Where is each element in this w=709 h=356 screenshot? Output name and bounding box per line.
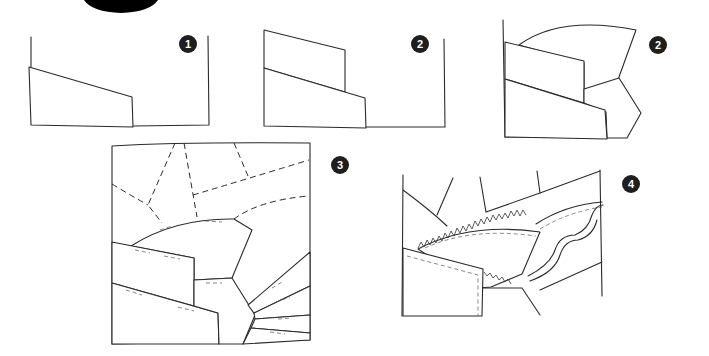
step-2b-diagram bbox=[503, 20, 641, 139]
step-2b-badge: 2 bbox=[649, 36, 667, 54]
step-3-diagram bbox=[112, 143, 310, 344]
svg-text:2: 2 bbox=[655, 39, 661, 51]
step-4-diagram bbox=[402, 170, 603, 316]
svg-text:2: 2 bbox=[417, 38, 423, 50]
svg-text:4: 4 bbox=[628, 178, 635, 190]
illustration-canvas: 1 2 2 bbox=[0, 0, 709, 356]
svg-text:1: 1 bbox=[185, 38, 191, 50]
header-semicircle bbox=[84, 0, 158, 13]
svg-text:3: 3 bbox=[337, 159, 343, 171]
step-4-badge: 4 bbox=[622, 175, 640, 193]
step-2a-badge: 2 bbox=[411, 35, 429, 53]
step-3-badge: 3 bbox=[331, 156, 349, 174]
step-1-badge: 1 bbox=[179, 35, 197, 53]
